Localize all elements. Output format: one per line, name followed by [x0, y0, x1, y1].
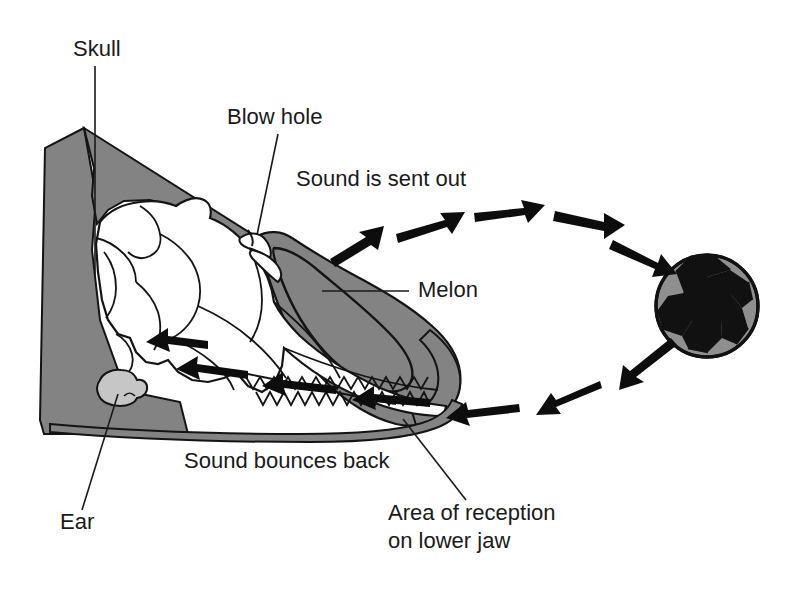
label-sound-is-sent-out: Sound is sent out: [296, 166, 466, 191]
echolocation-diagram: Skull Blow hole Sound is sent out Melon …: [0, 0, 804, 594]
label-blow-hole: Blow hole: [227, 104, 322, 129]
label-area-of-reception-line1: Area of reception: [388, 500, 556, 525]
label-skull: Skull: [73, 36, 121, 61]
label-sound-bounces-back: Sound bounces back: [184, 448, 390, 473]
outgoing-arrow-4: [553, 211, 625, 239]
outgoing-arrow-1: [330, 226, 384, 267]
outgoing-arrow-3: [474, 200, 545, 223]
returning-arrow-2: [536, 381, 602, 415]
label-melon: Melon: [418, 277, 478, 302]
diagram-canvas: Skull Blow hole Sound is sent out Melon …: [0, 0, 804, 594]
leader-blow-hole: [257, 134, 278, 235]
label-area-of-reception-line2: on lower jaw: [388, 528, 510, 553]
outgoing-arrow-5: [609, 240, 677, 277]
outgoing-sound-arrows: [330, 200, 677, 277]
outgoing-arrow-2: [396, 212, 465, 243]
leader-area-of-reception: [403, 419, 466, 500]
label-ear: Ear: [60, 509, 94, 534]
returning-arrow-1: [619, 338, 677, 390]
